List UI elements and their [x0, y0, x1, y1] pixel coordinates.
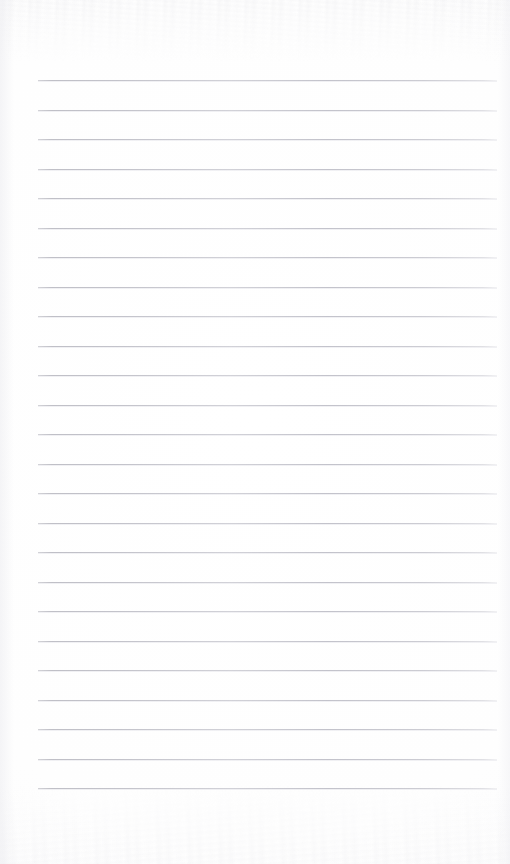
document-page — [0, 0, 510, 864]
rule-line — [38, 316, 497, 317]
rule-line — [38, 257, 497, 258]
rule-line — [38, 139, 497, 140]
rule-line — [38, 582, 497, 583]
rule-line — [38, 405, 497, 406]
rule-line — [38, 375, 497, 376]
rule-line — [38, 346, 497, 347]
rule-line — [38, 434, 497, 435]
rule-line — [38, 552, 497, 553]
rule-line — [38, 729, 497, 730]
rule-line — [38, 641, 497, 642]
rule-line — [38, 700, 497, 701]
ruled-lines-area — [0, 0, 510, 864]
rule-line — [38, 287, 497, 288]
rule-line — [38, 788, 497, 789]
rule-line — [38, 169, 497, 170]
rule-line — [38, 759, 497, 760]
rule-line — [38, 80, 497, 81]
rule-line — [38, 670, 497, 671]
rule-line — [38, 493, 497, 494]
rule-line — [38, 228, 497, 229]
rule-line — [38, 198, 497, 199]
rule-line — [38, 464, 497, 465]
rule-line — [38, 611, 497, 612]
rule-line — [38, 110, 497, 111]
rule-line — [38, 523, 497, 524]
